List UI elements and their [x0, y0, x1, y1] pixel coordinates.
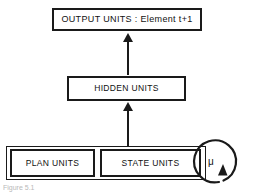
arrow-shaft — [127, 111, 129, 146]
output-units-label: OUTPUT UNITS : Element t+1 — [61, 15, 192, 24]
arrow-head-icon — [123, 33, 133, 42]
mu-symbol-label: μ — [208, 157, 214, 167]
hidden-units-box: HIDDEN UNITS — [67, 76, 186, 101]
recurrent-loop-icon — [190, 135, 252, 193]
output-units-box: OUTPUT UNITS : Element t+1 — [52, 8, 202, 31]
hidden-units-label: HIDDEN UNITS — [94, 84, 159, 93]
state-units-box: STATE UNITS — [100, 149, 201, 177]
plan-units-box: PLAN UNITS — [10, 149, 95, 177]
arrow-head-icon — [123, 102, 133, 111]
figure-caption: Figure 5.1 — [3, 184, 35, 193]
arrow-shaft — [127, 42, 129, 75]
state-units-label: STATE UNITS — [122, 159, 180, 168]
plan-units-label: PLAN UNITS — [26, 159, 80, 168]
figure-canvas: OUTPUT UNITS : Element t+1 HIDDEN UNITS … — [0, 0, 256, 194]
